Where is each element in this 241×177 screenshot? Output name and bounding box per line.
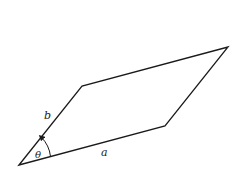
parallelogram-shape [19, 47, 228, 165]
angle-arc-icon [41, 137, 51, 157]
side-b-label: b [44, 109, 51, 122]
diagram-svg: b a θ [0, 0, 241, 177]
parallelogram-diagram: b a θ [0, 0, 241, 177]
side-a-label: a [101, 146, 108, 159]
angle-theta-label: θ [35, 149, 41, 160]
